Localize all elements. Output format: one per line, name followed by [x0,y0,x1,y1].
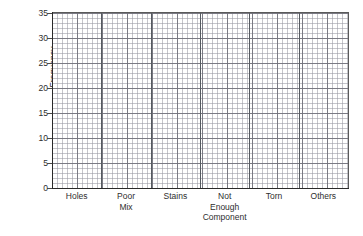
y-axis-tick-label: 30 [24,34,48,43]
x-axis-category-label: Others [285,191,361,202]
x-axis-category-label-line: Enough [187,202,263,213]
plot-right-border [348,12,349,189]
plot-top-border [52,12,349,13]
category-divider [101,13,102,188]
category-divider [200,13,201,188]
x-axis-category-label-line: Component [187,212,263,223]
y-axis-tick-labels: 05101520253035 [24,13,48,188]
y-axis-tick-label: 15 [24,109,48,118]
y-axis-tick-label: 10 [24,134,48,143]
y-axis-tick-label: 35 [24,9,48,18]
category-divider [249,13,250,188]
x-axis-category-labels: HolesPoorMixStainsNotEnoughComponentTorn… [0,191,363,236]
y-axis-tick-label: 25 [24,59,48,68]
y-axis-line [52,12,53,189]
category-divider [151,13,152,188]
y-axis-tick-label: 5 [24,159,48,168]
x-axis-category-label-line: Mix [88,202,164,213]
y-axis-tick-label: 20 [24,84,48,93]
x-axis-category-label-line: Others [285,191,361,202]
x-axis-line [52,188,349,189]
frequency-chart: Frequency 05101520253035 HolesPoorMixSta… [0,0,363,236]
category-divider [299,13,300,188]
plot-area-grid [52,13,348,188]
